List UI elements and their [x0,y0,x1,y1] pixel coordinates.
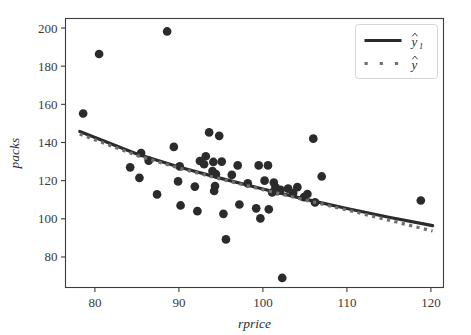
scatter-plot-figure: 8090100110120rprice80100120140160180200p… [0,0,471,335]
y-tick-label: 120 [38,173,58,188]
scatter-point [217,157,226,166]
scatter-point [200,160,209,169]
chart-canvas: 8090100110120rprice80100120140160180200p… [0,0,471,335]
scatter-point [235,200,244,209]
scatter-point [205,128,214,137]
scatter-point [254,161,263,170]
x-tick-label: 120 [421,295,441,310]
chart-page: 8090100110120rprice80100120140160180200p… [0,0,471,335]
scatter-point [416,196,425,205]
legend: y1y [356,25,438,79]
y-axis-title: packs [7,138,22,170]
y-tick-label: 180 [38,59,58,74]
scatter-point [211,182,220,191]
scatter-point [293,183,302,192]
x-tick-label: 110 [337,295,356,310]
y-tick-label: 80 [45,249,58,264]
legend-label: y [410,57,418,72]
scatter-point [227,171,236,180]
scatter-point [163,27,172,36]
scatter-point [233,161,242,170]
scatter-point [176,201,185,210]
legend-label: y [410,34,418,49]
scatter-point [222,235,231,244]
scatter-point [191,182,200,191]
scatter-point [209,158,218,167]
legend-box [356,25,438,79]
scatter-point [95,50,104,59]
scatter-point [201,152,210,161]
scatter-point [317,172,326,181]
y-tick-label: 160 [38,97,58,112]
x-tick-label: 90 [172,295,185,310]
x-tick-label: 80 [88,295,101,310]
scatter-point [252,204,261,213]
scatter-point [79,109,88,118]
scatter-point [278,274,287,283]
scatter-point [264,205,273,214]
y-tick-label: 140 [38,135,58,150]
scatter-point [260,176,269,185]
scatter-point [309,134,318,143]
x-axis-title: rprice [238,316,271,331]
x-tick-label: 100 [253,295,273,310]
scatter-point [174,177,183,186]
legend-label-subscript: 1 [419,41,423,51]
y-tick-label: 200 [38,21,58,36]
scatter-point [170,143,179,152]
scatter-point [193,207,202,216]
y-tick-label: 100 [38,211,58,226]
scatter-point [126,163,135,172]
scatter-point [303,190,312,199]
scatter-point [256,214,265,223]
scatter-point [219,210,228,219]
scatter-point [215,131,224,140]
scatter-point [153,190,162,199]
scatter-point [135,173,144,182]
scatter-point [264,161,273,170]
